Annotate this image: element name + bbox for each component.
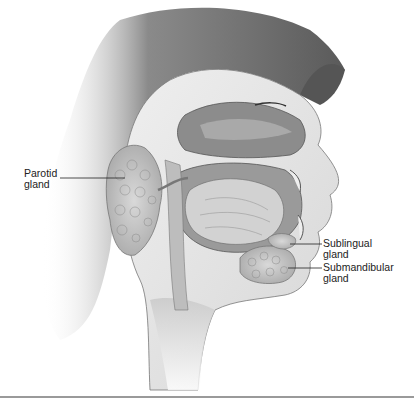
- submandibular-gland-label: Submandibular gland: [323, 262, 394, 284]
- bottom-divider: [0, 396, 414, 398]
- parotid-gland-label: Parotid gland: [24, 168, 57, 190]
- sublingual-gland-label: Sublingual gland: [323, 238, 372, 260]
- submandibular-gland: [240, 246, 296, 283]
- salivary-glands-illustration: [0, 0, 414, 400]
- tongue: [185, 179, 283, 245]
